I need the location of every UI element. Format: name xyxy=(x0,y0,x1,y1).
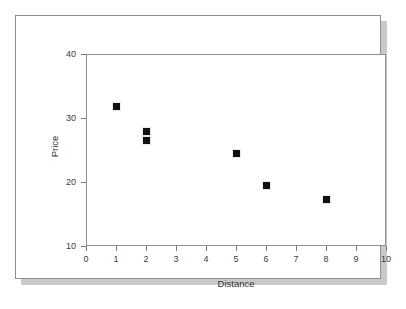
x-tick-label: 6 xyxy=(254,254,278,264)
x-tick-label: 0 xyxy=(74,254,98,264)
figure-card: 012345678910 10203040 Distance Price xyxy=(15,15,381,279)
data-point xyxy=(262,181,271,190)
x-tick-label: 10 xyxy=(374,254,398,264)
y-tick-mark xyxy=(81,54,86,55)
x-tick-label: 4 xyxy=(194,254,218,264)
data-point xyxy=(322,195,331,204)
x-axis-title: Distance xyxy=(86,278,386,289)
x-tick-mark xyxy=(356,246,357,251)
x-tick-mark xyxy=(116,246,117,251)
y-tick-mark xyxy=(81,182,86,183)
x-tick-label: 5 xyxy=(224,254,248,264)
y-tick-label: 40 xyxy=(54,49,76,59)
data-point xyxy=(232,149,241,158)
y-axis-title: Price xyxy=(49,107,60,187)
x-tick-label: 8 xyxy=(314,254,338,264)
x-tick-mark xyxy=(266,246,267,251)
x-tick-label: 3 xyxy=(164,254,188,264)
y-tick-label: 10 xyxy=(54,241,76,251)
x-tick-mark xyxy=(326,246,327,251)
x-tick-mark xyxy=(176,246,177,251)
x-tick-mark xyxy=(296,246,297,251)
x-tick-mark xyxy=(146,246,147,251)
x-tick-label: 7 xyxy=(284,254,308,264)
x-tick-label: 9 xyxy=(344,254,368,264)
x-tick-mark xyxy=(206,246,207,251)
data-point xyxy=(142,127,151,136)
x-tick-label: 1 xyxy=(104,254,128,264)
y-tick-mark xyxy=(81,118,86,119)
x-tick-mark xyxy=(86,246,87,251)
x-tick-mark xyxy=(386,246,387,251)
data-point xyxy=(142,136,151,145)
x-tick-label: 2 xyxy=(134,254,158,264)
y-tick-mark xyxy=(81,246,86,247)
data-point xyxy=(112,102,121,111)
x-tick-mark xyxy=(236,246,237,251)
